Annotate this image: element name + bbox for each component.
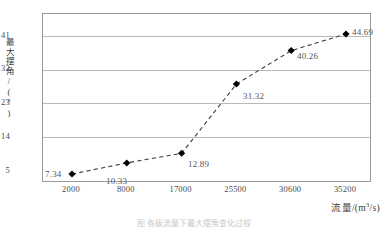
x-tick-label-8000: 8000: [103, 185, 149, 194]
point-label-4: 31.32: [243, 92, 264, 101]
x-tick-label-17000: 17000: [158, 185, 204, 194]
gridline-32: [43, 70, 370, 71]
chart-figure: 最大摆角/(°) 41 32 23 14 5 7.34 10.33 12.89: [0, 0, 388, 227]
point-label-3: 12.89: [188, 160, 209, 169]
y-tick-label-32: 32: [0, 64, 10, 73]
y-tick-label-14: 14: [0, 132, 10, 141]
x-axis-title-text: 流量/(m: [331, 203, 366, 213]
x-tick-label-35200: 35200: [322, 185, 368, 194]
figure-caption: 图 各级流量下最大摆角变化过程: [0, 219, 388, 227]
x-axis-title: 流量/(m3/s): [331, 199, 380, 214]
series-line-max-angle: [43, 14, 372, 183]
gridline-23: [43, 103, 370, 104]
gridline-14: [43, 137, 370, 138]
plot-area: 7.34 10.33 12.89 31.32 40.26 44.69: [42, 13, 371, 182]
y-tick-label-41: 41: [0, 31, 10, 40]
gridline-41: [43, 36, 370, 37]
point-label-6: 44.69: [352, 28, 373, 37]
x-axis-title-tail: /s): [370, 203, 380, 213]
y-tick-label-23: 23: [0, 98, 10, 107]
x-tick-label-2000: 2000: [48, 185, 94, 194]
point-label-5: 40.26: [297, 52, 318, 61]
x-tick-label-25500: 25500: [212, 185, 258, 194]
y-tick-label-5: 5: [0, 166, 10, 175]
x-tick-label-30600: 30600: [267, 185, 313, 194]
point-label-1: 7.34: [45, 170, 62, 179]
